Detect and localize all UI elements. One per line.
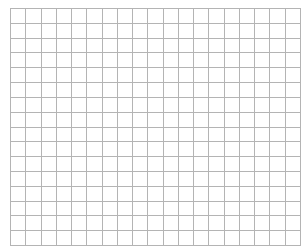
grid-cell bbox=[240, 83, 255, 98]
grid-cell bbox=[179, 172, 194, 187]
grid-cell bbox=[255, 98, 270, 113]
grid-cell bbox=[225, 9, 240, 24]
grid-cell bbox=[11, 113, 26, 128]
grid-cell bbox=[164, 216, 179, 231]
grid-cell bbox=[270, 9, 285, 24]
grid-cell bbox=[270, 157, 285, 172]
grid-cell bbox=[209, 9, 224, 24]
grid-cell bbox=[133, 39, 148, 54]
grid-cell bbox=[11, 83, 26, 98]
grid-cell bbox=[118, 24, 133, 39]
grid-cell bbox=[255, 231, 270, 246]
grid-cell bbox=[209, 157, 224, 172]
grid-cell bbox=[133, 216, 148, 231]
grid-cell bbox=[103, 202, 118, 217]
grid-cell bbox=[118, 202, 133, 217]
grid-cell bbox=[240, 98, 255, 113]
grid-cell bbox=[164, 157, 179, 172]
grid-cell bbox=[11, 172, 26, 187]
blank-grid bbox=[10, 8, 301, 246]
grid-cell bbox=[225, 68, 240, 83]
grid-cell bbox=[164, 202, 179, 217]
grid-cell bbox=[118, 231, 133, 246]
grid-cell bbox=[148, 157, 163, 172]
grid-cell bbox=[11, 231, 26, 246]
grid-cell bbox=[148, 142, 163, 157]
grid-cell bbox=[270, 128, 285, 143]
grid-cell bbox=[286, 216, 301, 231]
grid-cell bbox=[26, 39, 41, 54]
grid-cell bbox=[225, 128, 240, 143]
grid-cell bbox=[209, 83, 224, 98]
grid-cell bbox=[26, 216, 41, 231]
grid-cell bbox=[103, 128, 118, 143]
grid-cell bbox=[164, 39, 179, 54]
grid-cell bbox=[118, 113, 133, 128]
grid-cell bbox=[118, 128, 133, 143]
grid-cell bbox=[240, 157, 255, 172]
grid-cell bbox=[148, 113, 163, 128]
grid-cell bbox=[270, 39, 285, 54]
grid-cell bbox=[148, 98, 163, 113]
grid-cell bbox=[57, 98, 72, 113]
grid-cell bbox=[57, 128, 72, 143]
grid-cell bbox=[103, 157, 118, 172]
grid-cell bbox=[286, 39, 301, 54]
grid-cell bbox=[87, 53, 102, 68]
grid-cell bbox=[103, 68, 118, 83]
grid-cell bbox=[87, 157, 102, 172]
grid-cell bbox=[194, 68, 209, 83]
grid-cell bbox=[286, 83, 301, 98]
grid-cell bbox=[42, 9, 57, 24]
grid-cell bbox=[11, 39, 26, 54]
grid-cell bbox=[148, 216, 163, 231]
grid-cell bbox=[87, 98, 102, 113]
grid-cell bbox=[179, 53, 194, 68]
grid-cell bbox=[164, 172, 179, 187]
grid-cell bbox=[270, 187, 285, 202]
grid-cell bbox=[26, 68, 41, 83]
grid-cell bbox=[72, 113, 87, 128]
grid-cell bbox=[72, 9, 87, 24]
grid-cell bbox=[194, 187, 209, 202]
grid-cell bbox=[118, 53, 133, 68]
grid-cell bbox=[11, 157, 26, 172]
grid-cell bbox=[209, 128, 224, 143]
grid-cell bbox=[194, 98, 209, 113]
grid-cell bbox=[179, 231, 194, 246]
grid-cell bbox=[118, 39, 133, 54]
grid-cell bbox=[148, 202, 163, 217]
grid-cell bbox=[255, 216, 270, 231]
grid-cell bbox=[179, 128, 194, 143]
grid-cell bbox=[87, 216, 102, 231]
grid-cell bbox=[42, 142, 57, 157]
grid-cell bbox=[179, 202, 194, 217]
grid-cell bbox=[11, 24, 26, 39]
grid-cell bbox=[11, 187, 26, 202]
grid-cell bbox=[240, 24, 255, 39]
grid-cell bbox=[103, 53, 118, 68]
grid-cell bbox=[240, 202, 255, 217]
grid-cell bbox=[240, 39, 255, 54]
grid-cell bbox=[42, 39, 57, 54]
grid-cell bbox=[194, 113, 209, 128]
grid-cell bbox=[225, 39, 240, 54]
grid-cell bbox=[194, 128, 209, 143]
grid-cell bbox=[225, 53, 240, 68]
grid-cell bbox=[87, 142, 102, 157]
grid-cell bbox=[209, 216, 224, 231]
grid-cell bbox=[240, 172, 255, 187]
grid-cell bbox=[133, 128, 148, 143]
grid-cell bbox=[87, 128, 102, 143]
grid-cell bbox=[225, 231, 240, 246]
grid-cell bbox=[240, 53, 255, 68]
grid-cell bbox=[255, 187, 270, 202]
grid-cell bbox=[255, 172, 270, 187]
grid-cell bbox=[270, 113, 285, 128]
grid-cell bbox=[225, 83, 240, 98]
grid-cell bbox=[26, 113, 41, 128]
grid-cell bbox=[57, 83, 72, 98]
grid-cell bbox=[11, 202, 26, 217]
grid-cell bbox=[72, 231, 87, 246]
grid-cell bbox=[87, 39, 102, 54]
